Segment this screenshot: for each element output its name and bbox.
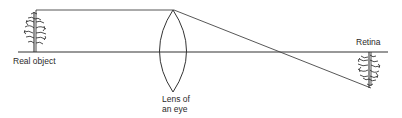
retina-label: Retina <box>356 37 381 47</box>
lens-shape <box>160 10 187 92</box>
lens-label-line1: Lens of <box>162 94 190 104</box>
real-object-label: Real object <box>13 56 56 66</box>
real-object-tree-icon <box>24 10 46 52</box>
eye-lens-diagram <box>0 0 402 118</box>
inverted-image-tree-icon <box>358 52 380 88</box>
refracted-ray <box>174 10 371 88</box>
lens-label-line2: an eye <box>162 104 190 114</box>
lens-label: Lens of an eye <box>162 94 190 114</box>
